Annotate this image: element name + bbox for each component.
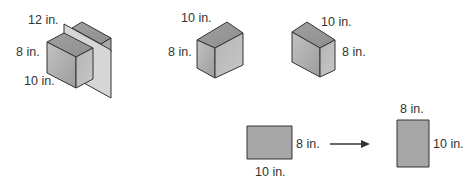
cube-b-side-label: 8 in. — [342, 45, 366, 59]
rectangle-after-figure: 8 in. 10 in. — [397, 102, 464, 167]
cube-view-a-figure: 10 in. 8 in. — [168, 11, 243, 78]
rectangle-before-figure: 8 in. 10 in. — [247, 126, 320, 179]
rect-before-bottom-label: 10 in. — [255, 165, 286, 179]
rect-after-top-label: 8 in. — [400, 102, 424, 116]
rotation-arrow-icon — [330, 140, 370, 148]
rectangle-before — [247, 126, 292, 159]
length-label: 12 in. — [28, 13, 59, 27]
rect-before-side-label: 8 in. — [296, 137, 320, 151]
cube-a-top-label: 10 in. — [181, 11, 212, 25]
rectangle-after — [397, 120, 429, 167]
diagram-canvas: 12 in. 8 in. 10 in. 10 in. 8 in. 10 in. … — [0, 0, 475, 184]
cube-b-top-label: 10 in. — [321, 15, 352, 29]
cube-with-plane-figure: 12 in. 8 in. 10 in. — [16, 13, 111, 98]
height-label: 8 in. — [16, 45, 40, 59]
rect-after-side-label: 10 in. — [433, 137, 464, 151]
width-label: 10 in. — [24, 74, 55, 88]
cube-view-b-figure: 10 in. 8 in. — [292, 15, 366, 77]
cube-a-side-label: 8 in. — [168, 45, 192, 59]
